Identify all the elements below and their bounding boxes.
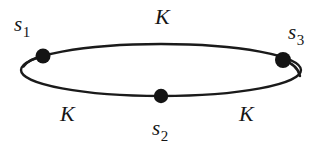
node-label-s1: s1 [14,14,30,40]
node-s3 [275,52,291,68]
node-label-s3-subscript: 3 [297,32,305,48]
node-label-s1-base: s [14,12,22,36]
edge-label-k-top: K [155,6,170,28]
node-s1 [36,49,51,64]
node-label-s3-base: s [288,20,296,44]
node-label-s1-subscript: 1 [23,24,31,40]
node-s2 [154,89,168,103]
edge-label-k-bottom-left: K [60,103,75,125]
node-label-s2-subscript: 2 [161,128,169,144]
edge-label-k-bottom-right: K [239,103,254,125]
node-label-s2-base: s [152,116,160,140]
ring-ellipse [21,44,301,96]
node-label-s3: s3 [288,22,304,48]
node-label-s2: s2 [152,118,168,144]
figure-canvas: s1 s2 s3 K K K [0,0,325,153]
